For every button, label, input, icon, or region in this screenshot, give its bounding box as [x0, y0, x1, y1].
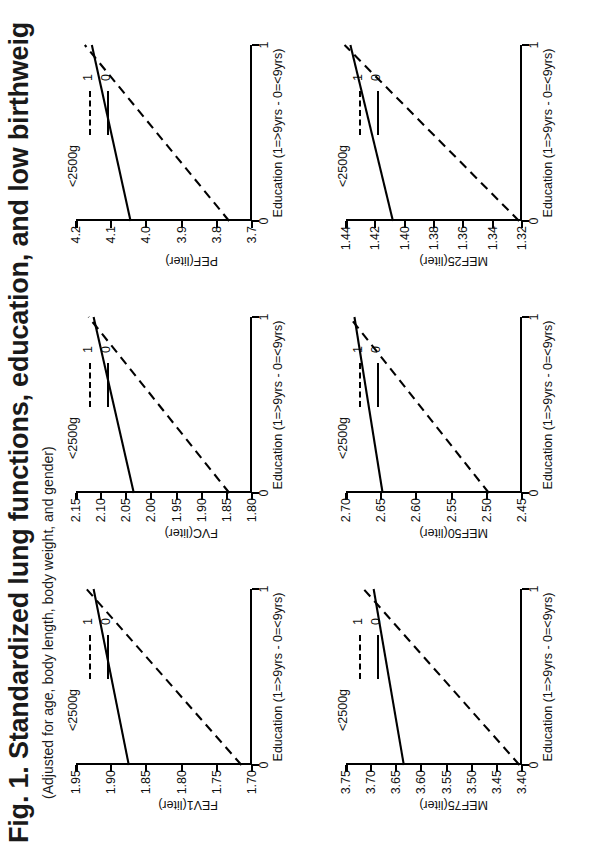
series-lines — [76, 45, 252, 221]
y-tick-label: 4.0 — [140, 226, 153, 243]
plot-area-mef25: 1.321.341.361.381.401.421.4401MEF25(lite… — [346, 45, 522, 221]
series-lines — [346, 589, 522, 765]
figure-subtitle: (Adjusted for age, body length, body wei… — [40, 446, 56, 799]
panel-fev1: <2500g101.701.751.801.851.901.9501FEV1(l… — [68, 569, 323, 827]
y-tick-label: 1.75 — [211, 770, 224, 794]
x-axis-label: Education (1=>9yrs - 0=<9yrs) — [272, 317, 285, 493]
series-line-1 — [85, 45, 229, 221]
y-axis-label: MEF50(liter) — [419, 527, 488, 540]
plot-area-pef: 3.73.83.94.04.14.201PEF(liter)Education … — [76, 45, 252, 221]
series-line-0 — [94, 589, 129, 765]
series-line-0 — [374, 589, 404, 765]
x-tick-label: 0 — [258, 218, 271, 225]
plot-area-fev1: 1.701.751.801.851.901.9501FEV1(liter)Edu… — [76, 589, 252, 765]
y-tick-label: 3.70 — [365, 770, 378, 794]
series-lines — [346, 317, 522, 493]
y-tick-label: 1.95 — [170, 498, 183, 522]
y-tick-label: 3.40 — [516, 770, 529, 794]
series-line-1 — [350, 317, 489, 493]
y-tick-label: 1.80 — [175, 770, 188, 794]
y-tick-label: 1.38 — [428, 226, 441, 250]
figure-title: Fig. 1. Standardized lung functions, edu… — [4, 22, 35, 843]
y-tick-label: 3.9 — [175, 226, 188, 243]
x-tick-label: 0 — [528, 490, 541, 497]
y-tick-label: 2.15 — [70, 498, 83, 522]
x-tick-label: 1 — [258, 42, 271, 49]
y-axis-label: FEV1(liter) — [158, 799, 218, 812]
series-line-1 — [364, 589, 520, 765]
y-tick-label: 1.34 — [486, 226, 499, 250]
figure-canvas: Fig. 1. Standardized lung functions, edu… — [0, 0, 603, 845]
y-axis-label: MEF75(liter) — [419, 799, 488, 812]
y-tick-label: 3.50 — [465, 770, 478, 794]
x-tick-label: 1 — [258, 586, 271, 593]
y-tick-label: 3.8 — [211, 226, 224, 243]
series-line-0 — [94, 317, 134, 493]
y-tick-label: 1.90 — [195, 498, 208, 522]
y-tick-label: 2.65 — [375, 498, 388, 522]
x-axis-label: Education (1=>9yrs - 0=<9yrs) — [542, 589, 555, 765]
plot-area-mef75: 3.403.453.503.553.603.653.703.7501MEF75(… — [346, 589, 522, 765]
y-tick-label: 1.36 — [457, 226, 470, 250]
plot-area-fvc: 1.801.851.901.952.002.052.102.1501FVC(li… — [76, 317, 252, 493]
y-tick-label: 2.50 — [481, 498, 494, 522]
y-tick-label: 2.60 — [410, 498, 423, 522]
y-tick-label: 1.32 — [516, 226, 529, 250]
x-tick-label: 0 — [258, 762, 271, 769]
x-tick-label: 0 — [528, 218, 541, 225]
x-tick-label: 1 — [528, 586, 541, 593]
y-tick-label: 1.44 — [340, 226, 353, 250]
y-tick-label: 2.05 — [120, 498, 133, 522]
panel-pef: <2500g103.73.83.94.04.14.201PEF(liter)Ed… — [68, 25, 323, 283]
panel-grid: <2500g101.701.751.801.851.901.9501FEV1(l… — [62, 0, 603, 845]
series-lines — [346, 45, 522, 221]
figure-rotation-wrapper: Fig. 1. Standardized lung functions, edu… — [0, 0, 603, 845]
x-tick-label: 1 — [258, 314, 271, 321]
y-tick-label: 1.85 — [221, 498, 234, 522]
y-tick-label: 1.90 — [105, 770, 118, 794]
y-tick-label: 4.1 — [105, 226, 118, 243]
y-tick-label: 4.2 — [70, 226, 83, 243]
x-axis-label: Education (1=>9yrs - 0=<9yrs) — [272, 45, 285, 221]
x-axis-label: Education (1=>9yrs - 0=<9yrs) — [542, 317, 555, 493]
y-axis-label: FVC(liter) — [165, 527, 218, 540]
y-tick-label: 1.95 — [70, 770, 83, 794]
panel-mef50: <2500g102.452.502.552.602.652.7001MEF50(… — [338, 297, 593, 555]
series-lines — [76, 589, 252, 765]
y-tick-label: 1.70 — [246, 770, 259, 794]
series-line-0 — [354, 317, 382, 493]
y-tick-label: 2.45 — [516, 498, 529, 522]
x-axis-label: Education (1=>9yrs - 0=<9yrs) — [272, 589, 285, 765]
series-line-1 — [89, 317, 230, 493]
panel-mef25: <2500g101.321.341.361.381.401.421.4401ME… — [338, 25, 593, 283]
panel-fvc: <2500g101.801.851.901.952.002.052.102.15… — [68, 297, 323, 555]
y-tick-label: 2.70 — [340, 498, 353, 522]
y-tick-label: 1.80 — [246, 498, 259, 522]
y-tick-label: 3.75 — [340, 770, 353, 794]
y-axis-label: MEF25(liter) — [419, 255, 488, 268]
series-line-0 — [92, 45, 131, 221]
y-tick-label: 1.85 — [140, 770, 153, 794]
series-lines — [76, 317, 252, 493]
y-tick-label: 1.40 — [398, 226, 411, 250]
x-tick-label: 0 — [528, 762, 541, 769]
y-axis-label: PEF(liter) — [165, 255, 218, 268]
y-tick-label: 3.45 — [491, 770, 504, 794]
series-line-1 — [87, 589, 242, 765]
y-tick-label: 3.7 — [246, 226, 259, 243]
y-tick-label: 2.55 — [445, 498, 458, 522]
y-tick-label: 1.42 — [369, 226, 382, 250]
y-tick-label: 2.00 — [145, 498, 158, 522]
x-tick-label: 1 — [528, 314, 541, 321]
panel-mef75: <2500g103.403.453.503.553.603.653.703.75… — [338, 569, 593, 827]
y-tick-label: 2.10 — [95, 498, 108, 522]
x-tick-label: 0 — [258, 490, 271, 497]
y-tick-label: 3.55 — [440, 770, 453, 794]
y-tick-label: 3.60 — [415, 770, 428, 794]
x-tick-label: 1 — [528, 42, 541, 49]
plot-area-mef50: 2.452.502.552.602.652.7001MEF50(liter)Ed… — [346, 317, 522, 493]
y-tick-label: 3.65 — [390, 770, 403, 794]
x-axis-label: Education (1=>9yrs - 0=<9yrs) — [542, 45, 555, 221]
